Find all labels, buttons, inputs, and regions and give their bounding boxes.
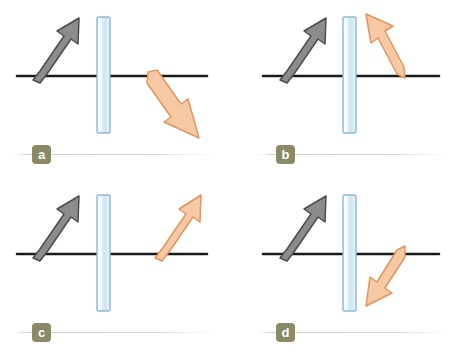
outgoing-ray-arrow bbox=[147, 70, 199, 138]
option-badge-d[interactable]: d bbox=[276, 323, 295, 342]
incident-ray-arrow bbox=[33, 196, 79, 261]
glass-slab bbox=[97, 17, 110, 133]
panel-b[interactable] bbox=[229, 0, 457, 178]
incident-ray-arrow bbox=[280, 196, 326, 261]
incident-ray-arrow bbox=[33, 18, 79, 83]
outgoing-ray-arrow bbox=[366, 14, 405, 78]
option-badge-a[interactable]: a bbox=[32, 145, 51, 164]
refraction-figure: a b c d bbox=[0, 0, 457, 357]
outgoing-ray-arrow bbox=[155, 195, 201, 261]
panel-d[interactable] bbox=[229, 178, 457, 356]
option-badge-b[interactable]: b bbox=[276, 145, 295, 164]
glass-slab bbox=[343, 195, 356, 311]
incident-ray-arrow bbox=[280, 18, 326, 83]
option-badge-c[interactable]: c bbox=[32, 323, 51, 342]
glass-slab bbox=[97, 195, 110, 311]
glass-slab bbox=[343, 17, 356, 133]
